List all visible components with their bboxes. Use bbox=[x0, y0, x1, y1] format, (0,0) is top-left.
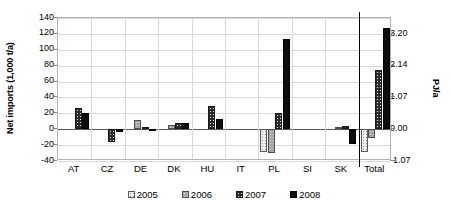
x-axis-label-at: AT bbox=[57, 163, 90, 175]
legend-swatch-2006 bbox=[182, 191, 189, 198]
y-axis-left-ticks: 140120100806040200-20-40 bbox=[18, 0, 54, 212]
bar-pl-2005 bbox=[260, 129, 267, 152]
legend-item-2006[interactable]: 2006 bbox=[182, 189, 212, 200]
bar-pl-2008 bbox=[283, 39, 290, 130]
chart-legend: 2005200620072008 bbox=[57, 186, 391, 202]
y-tick-mark-left bbox=[53, 33, 57, 34]
y-tick-mark-right bbox=[391, 33, 395, 34]
x-axis-label-hu: HU bbox=[191, 163, 224, 175]
y-tick-label-left: 140 bbox=[39, 13, 54, 22]
bar-dk-2007 bbox=[175, 123, 182, 129]
y-tick-mark-left bbox=[53, 81, 57, 82]
bar-group bbox=[91, 18, 124, 159]
x-axis-labels: ATCZDEDKHUITPLSISKTotal bbox=[57, 163, 391, 177]
bar-pl-2006 bbox=[268, 129, 275, 153]
x-axis-label-sk: SK bbox=[324, 163, 357, 175]
x-axis-label-dk: DK bbox=[157, 163, 190, 175]
y-tick-mark-left bbox=[53, 65, 57, 66]
y-tick-mark-left bbox=[53, 112, 57, 113]
y-axis-title-right: PJ/a bbox=[428, 14, 444, 162]
bar-at-2008 bbox=[82, 113, 89, 130]
bar-total-2005 bbox=[361, 129, 368, 152]
bar-de-2007 bbox=[142, 127, 149, 129]
y-tick-mark-left bbox=[53, 144, 57, 145]
x-axis-label-total: Total bbox=[358, 163, 391, 175]
legend-label-2005: 2005 bbox=[137, 189, 158, 200]
legend-item-2008[interactable]: 2008 bbox=[290, 189, 320, 200]
bar-sk-2006 bbox=[335, 127, 342, 129]
y-tick-mark-right bbox=[391, 160, 395, 161]
y-tick-mark-right bbox=[391, 96, 395, 97]
y-tick-mark-right bbox=[391, 128, 395, 129]
bar-group bbox=[359, 18, 392, 159]
chart-figure: Net imports (1,000 t/a) PJ/a 14012010080… bbox=[0, 0, 451, 212]
y-tick-mark-right bbox=[391, 65, 395, 66]
bar-sk-2008 bbox=[349, 129, 356, 143]
y-tick-mark-left bbox=[53, 17, 57, 18]
bar-sk-2007 bbox=[342, 126, 349, 129]
bar-group bbox=[325, 18, 358, 159]
bar-at-2007 bbox=[75, 108, 82, 129]
legend-label-2008: 2008 bbox=[299, 189, 320, 200]
y-tick-label-left: 100 bbox=[39, 44, 54, 53]
y-tick-mark-left bbox=[53, 96, 57, 97]
plot-area bbox=[57, 17, 391, 160]
bar-dk-2008 bbox=[182, 123, 189, 129]
y-tick-label-left: 120 bbox=[39, 28, 54, 37]
x-axis-label-de: DE bbox=[124, 163, 157, 175]
gridline bbox=[58, 161, 390, 162]
bar-total-2006 bbox=[368, 129, 375, 138]
legend-item-2007[interactable]: 2007 bbox=[236, 189, 266, 200]
legend-label-2007: 2007 bbox=[245, 189, 266, 200]
bar-pl-2007 bbox=[275, 113, 282, 130]
legend-swatch-2007 bbox=[236, 191, 243, 198]
x-axis-label-cz: CZ bbox=[90, 163, 123, 175]
bar-dk-2006 bbox=[168, 125, 175, 129]
bar-group bbox=[258, 18, 291, 159]
x-axis-label-it: IT bbox=[224, 163, 257, 175]
legend-item-2005[interactable]: 2005 bbox=[128, 189, 158, 200]
bar-de-2006 bbox=[134, 120, 141, 129]
bar-total-2008 bbox=[383, 28, 390, 130]
bar-hu-2008 bbox=[216, 119, 223, 129]
y-tick-mark-left bbox=[53, 128, 57, 129]
legend-swatch-2005 bbox=[128, 191, 135, 198]
x-axis-label-si: SI bbox=[291, 163, 324, 175]
bar-cz-2008 bbox=[116, 129, 123, 132]
y-axis-right-ticks: 3.202.141.070.00-1.07 bbox=[390, 0, 430, 212]
bar-group bbox=[125, 18, 158, 159]
bar-hu-2007 bbox=[208, 106, 215, 129]
y-tick-mark-left bbox=[53, 49, 57, 50]
legend-label-2006: 2006 bbox=[191, 189, 212, 200]
legend-swatch-2008 bbox=[290, 191, 297, 198]
y-tick-mark-left bbox=[53, 160, 57, 161]
y-axis-title-left: Net imports (1,000 t/a) bbox=[2, 14, 18, 162]
bar-group bbox=[292, 18, 325, 159]
bar-group bbox=[158, 18, 191, 159]
x-axis-label-pl: PL bbox=[257, 163, 290, 175]
bar-group bbox=[225, 18, 258, 159]
bar-total-2007 bbox=[375, 70, 382, 130]
bar-group bbox=[192, 18, 225, 159]
bar-group bbox=[58, 18, 91, 159]
bar-cz-2007 bbox=[108, 129, 115, 142]
bar-de-2008 bbox=[149, 129, 156, 131]
